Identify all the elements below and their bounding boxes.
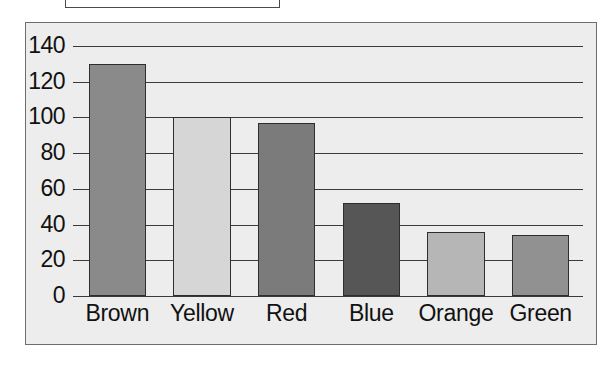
bar-green[interactable]	[512, 235, 570, 296]
x-axis-tick-label-blue: Blue	[329, 301, 414, 326]
x-axis-tick-label-yellow: Yellow	[160, 301, 245, 326]
bar-red[interactable]	[258, 123, 316, 296]
y-axis-tick-label: 120	[5, 70, 65, 93]
y-axis-tick-label: 60	[5, 177, 65, 200]
y-axis-tick-label: 100	[5, 105, 65, 128]
bar-chart: 020406080100120140 BrownYellowRedBlueOra…	[25, 22, 597, 345]
bar-slot	[329, 46, 414, 296]
gridline-0	[73, 296, 583, 297]
bar-slot	[414, 46, 499, 296]
y-axis-tick-label: 0	[5, 284, 65, 307]
bar-brown[interactable]	[89, 64, 147, 296]
x-axis-tick-label-green: Green	[498, 301, 583, 326]
y-axis-tick-label: 40	[5, 213, 65, 236]
bar-slot	[75, 46, 160, 296]
bar-slot	[498, 46, 583, 296]
x-axis-tick-label-brown: Brown	[75, 301, 160, 326]
bar-orange[interactable]	[427, 232, 485, 296]
bar-yellow[interactable]	[173, 117, 231, 296]
y-axis-tick-label: 80	[5, 141, 65, 164]
x-axis-tick-label-red: Red	[244, 301, 329, 326]
top-caption-box	[65, 0, 280, 8]
y-axis-tick-label: 20	[5, 248, 65, 271]
bar-slot	[244, 46, 329, 296]
bars-group	[75, 46, 583, 296]
bar-blue[interactable]	[343, 203, 401, 296]
plot-area: 020406080100120140 BrownYellowRedBlueOra…	[26, 23, 596, 344]
x-axis-tick-label-orange: Orange	[414, 301, 499, 326]
bar-slot	[160, 46, 245, 296]
y-axis-tick-label: 140	[5, 34, 65, 57]
